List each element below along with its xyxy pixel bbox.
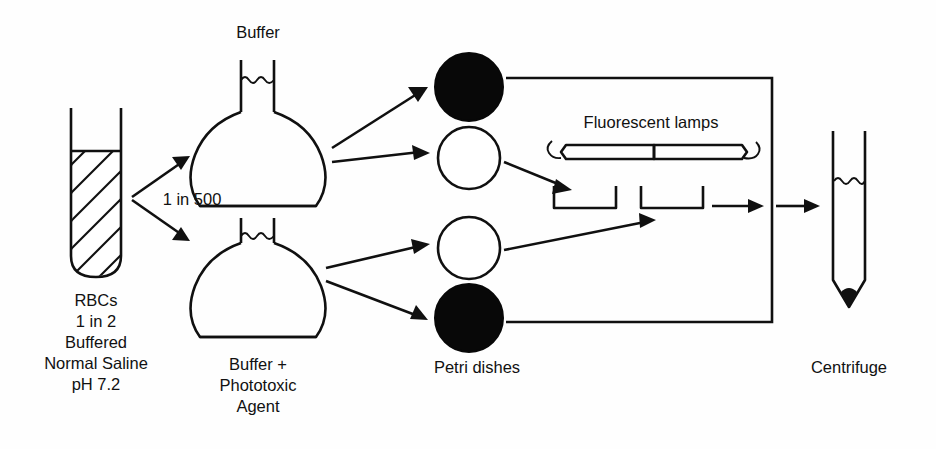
petri-dish-4-dark [435, 284, 503, 352]
flask-phototoxic [191, 218, 326, 337]
arrowhead [410, 305, 428, 320]
petri-dish-1-dark [435, 53, 503, 121]
arrowhead [411, 239, 430, 254]
phototoxic-flask-caption: Buffer + Phototoxic Agent [219, 355, 296, 415]
phototoxic-label-line1: Buffer + [229, 355, 287, 373]
flask-liquid-level [241, 77, 274, 83]
arrowhead [748, 199, 764, 213]
phototoxic-label-line3: Agent [236, 397, 280, 415]
source-label-line1: RBCs [74, 291, 117, 309]
petri-dishes-label: Petri dishes [434, 358, 520, 376]
edge-dish-2-to-tray-1 [504, 162, 572, 194]
petri-dish-3-open [438, 217, 500, 279]
tube-hatch-fill [46, 130, 126, 316]
source-label-line2: 1 in 2 [76, 312, 116, 330]
edge-collector-to-centrifuge [776, 199, 820, 213]
centrifuge-tube [833, 131, 865, 307]
arrowhead [408, 87, 428, 102]
centrifuge-glass-outline [833, 131, 865, 307]
edge-phototoxic-flask-to-dish-4 [326, 281, 428, 320]
fluorescent-lamp-1 [561, 145, 654, 159]
source-label-line5: pH 7.2 [72, 375, 121, 393]
flask-buffer [191, 60, 326, 206]
source-label-line4: Normal Saline [44, 354, 148, 372]
arrowhead [639, 213, 656, 228]
arrowhead [804, 199, 820, 213]
phototoxic-label-line2: Phototoxic [219, 376, 296, 394]
arrowhead [412, 145, 430, 160]
centrifuge-label: Centrifuge [811, 358, 887, 376]
diagram-root: RBCs 1 in 2 Buffered Normal Saline pH 7.… [0, 0, 936, 449]
fluorescent-lamps-label: Fluorescent lamps [584, 113, 719, 131]
flask-liquid-level [241, 233, 274, 239]
source-caption: RBCs 1 in 2 Buffered Normal Saline pH 7.… [44, 291, 148, 393]
centrifuge-liquid-level [834, 178, 865, 184]
lamp-lead-left [548, 141, 561, 158]
fluorescent-lamp-2 [654, 145, 747, 159]
edge-dish-1-bypass [506, 78, 772, 206]
fluorescent-lamp-assembly [548, 141, 760, 159]
buffer-flask-label: Buffer [236, 23, 280, 41]
source-label-line3: Buffered [65, 333, 127, 351]
edge-buffer-flask-to-dish-1 [332, 87, 428, 148]
edge-dish-3-to-tray-2 [504, 213, 656, 250]
petri-dish-2-open [438, 127, 500, 189]
edge-phototoxic-flask-to-dish-3 [326, 239, 430, 268]
edge-tray-to-collector [712, 199, 764, 213]
edge-buffer-flask-to-dish-2 [332, 145, 430, 162]
flow-diagram-canvas: RBCs 1 in 2 Buffered Normal Saline pH 7.… [0, 0, 936, 449]
irradiation-tray-2 [641, 186, 703, 208]
arrowhead [552, 179, 572, 194]
source-test-tube [46, 108, 126, 316]
